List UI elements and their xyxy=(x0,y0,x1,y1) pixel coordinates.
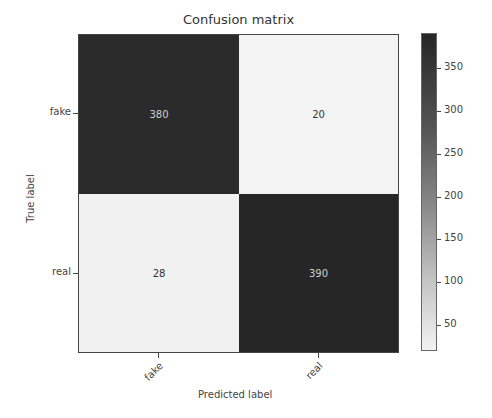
colorbar-label-200: 200 xyxy=(444,190,463,201)
cell-fake-fake: 380 xyxy=(79,35,239,194)
colorbar-tick-150 xyxy=(437,239,441,240)
cell-value: 380 xyxy=(149,109,168,120)
colorbar xyxy=(421,33,437,351)
cell-value: 28 xyxy=(153,268,166,279)
colorbar-tick-50 xyxy=(437,325,441,326)
ytick-mark-real xyxy=(73,273,78,274)
colorbar-tick-200 xyxy=(437,197,441,198)
colorbar-tick-350 xyxy=(437,68,441,69)
confusion-matrix: 380 20 28 390 xyxy=(78,34,399,353)
cell-real-fake: 28 xyxy=(79,194,239,352)
cell-real-real: 390 xyxy=(239,194,398,352)
chart-title: Confusion matrix xyxy=(78,12,399,27)
ytick-mark-fake xyxy=(73,113,78,114)
ytick-label-fake: fake xyxy=(31,106,71,117)
xtick-label-real: real xyxy=(304,360,325,381)
cell-fake-real: 20 xyxy=(239,35,398,194)
xtick-label-fake: fake xyxy=(142,360,165,383)
colorbar-label-300: 300 xyxy=(444,104,463,115)
colorbar-label-150: 150 xyxy=(444,232,463,243)
colorbar-tick-250 xyxy=(437,154,441,155)
colorbar-label-100: 100 xyxy=(444,275,463,286)
colorbar-label-50: 50 xyxy=(444,318,457,329)
colorbar-tick-300 xyxy=(437,111,441,112)
cell-value: 390 xyxy=(309,268,328,279)
x-axis-label: Predicted label xyxy=(198,389,272,400)
colorbar-label-250: 250 xyxy=(444,147,463,158)
ytick-label-real: real xyxy=(31,266,71,277)
colorbar-label-350: 350 xyxy=(444,61,463,72)
xtick-mark-real xyxy=(318,353,319,358)
y-axis-label: True label xyxy=(25,174,36,223)
cell-value: 20 xyxy=(312,109,325,120)
colorbar-tick-100 xyxy=(437,282,441,283)
xtick-mark-fake xyxy=(158,353,159,358)
